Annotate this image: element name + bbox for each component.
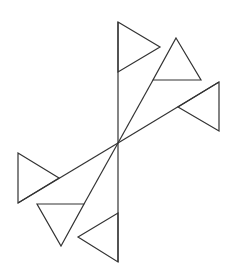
triangle-upper-right bbox=[153, 38, 201, 80]
triangle-right bbox=[178, 82, 219, 131]
ray-upper-right-steep bbox=[118, 80, 153, 143]
diagram-canvas bbox=[0, 0, 236, 277]
triangle-left bbox=[18, 153, 59, 203]
triangle-bottom bbox=[78, 213, 118, 262]
triangle-lower-left bbox=[37, 204, 84, 246]
ray-lower-left-steep bbox=[84, 143, 118, 204]
triangle-top bbox=[118, 22, 160, 72]
